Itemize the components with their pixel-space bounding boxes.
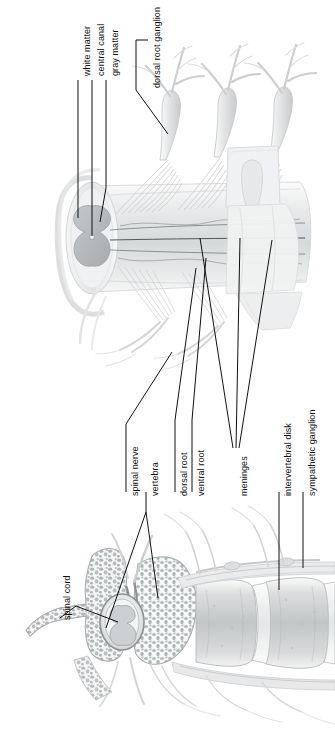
leader-lines [60,40,303,628]
dorsal-root-ganglion-2 [214,88,237,157]
lower-vertebral-column-panel [26,506,335,724]
vertebral-body-1 [196,580,257,667]
leader-dorsal-root [175,268,196,492]
leader-spinal-nerve [126,352,172,492]
dorsal-root-ganglion-1 [160,90,181,160]
anatomical-illustration [0,0,335,754]
vertebral-body-2 [266,578,329,669]
leader-ventral-root [192,258,206,492]
anatomy-figure: white matter central canal gray matter d… [0,0,335,754]
upper-spinal-cord-panel [57,43,316,370]
dorsal-root-ganglion-3 [270,87,293,155]
